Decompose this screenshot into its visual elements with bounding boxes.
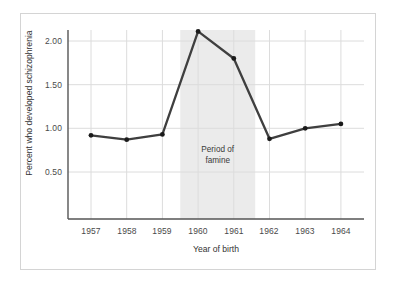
x-tick-label-1959: 1959 — [142, 226, 182, 236]
data-point-1958 — [124, 137, 129, 142]
data-point-1964 — [339, 122, 344, 127]
x-tick-label-1960: 1960 — [178, 226, 218, 236]
x-tick-label-1961: 1961 — [214, 226, 254, 236]
data-point-1959 — [160, 132, 165, 137]
data-point-1962 — [267, 136, 272, 141]
famine-annotation-line-2: famine — [180, 156, 255, 167]
x-tick-label-1957: 1957 — [71, 226, 111, 236]
x-tick-label-1958: 1958 — [107, 226, 147, 236]
data-point-1963 — [303, 126, 308, 131]
data-point-1960 — [196, 29, 201, 34]
x-tick-label-1962: 1962 — [249, 226, 289, 236]
data-point-1961 — [231, 56, 236, 61]
y-tick-label-1.50: 1.50 — [32, 80, 62, 90]
famine-annotation-line-1: Period of — [180, 145, 255, 156]
x-tick-label-1964: 1964 — [321, 226, 361, 236]
x-axis-title: Year of birth — [56, 244, 376, 254]
data-point-1957 — [89, 133, 94, 138]
y-tick-label-2.00: 2.00 — [32, 36, 62, 46]
famine-shaded-band — [180, 30, 255, 219]
y-tick-label-0.50: 0.50 — [32, 167, 62, 177]
x-tick-label-1963: 1963 — [285, 226, 325, 236]
famine-annotation-label: Period of famine — [180, 145, 255, 166]
y-tick-label-1.00: 1.00 — [32, 123, 62, 133]
